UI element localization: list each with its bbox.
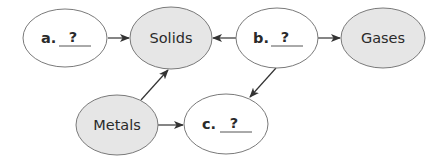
- concept-map-svg: a.?Solidsb.?GasesMetalsc.?: [0, 0, 445, 165]
- node-gases: Gases: [341, 8, 425, 68]
- nodes-layer: a.?Solidsb.?GasesMetalsc.?: [23, 7, 425, 155]
- node-metals-label: Metals: [93, 117, 141, 133]
- arrow-b-to-c: [250, 68, 276, 97]
- node-solids: Solids: [130, 7, 212, 69]
- node-a-prefix: a.: [41, 30, 56, 46]
- node-b-question-mark: ?: [281, 29, 289, 45]
- node-b-ellipse: [236, 8, 318, 68]
- node-a-ellipse: [23, 9, 107, 67]
- node-a: a.?: [23, 9, 107, 67]
- node-solids-label: Solids: [150, 30, 193, 46]
- node-a-question-mark: ?: [69, 29, 77, 45]
- node-c-question-mark: ?: [230, 115, 238, 131]
- node-metals: Metals: [76, 95, 158, 155]
- concept-map: a.?Solidsb.?GasesMetalsc.?: [0, 0, 445, 165]
- arrow-metals-to-solids: [141, 70, 168, 100]
- node-gases-label: Gases: [361, 30, 405, 46]
- node-c-prefix: c.: [202, 116, 216, 132]
- node-c: c.?: [184, 94, 268, 154]
- node-c-ellipse: [184, 94, 268, 154]
- node-b: b.?: [236, 8, 318, 68]
- node-b-prefix: b.: [253, 30, 269, 46]
